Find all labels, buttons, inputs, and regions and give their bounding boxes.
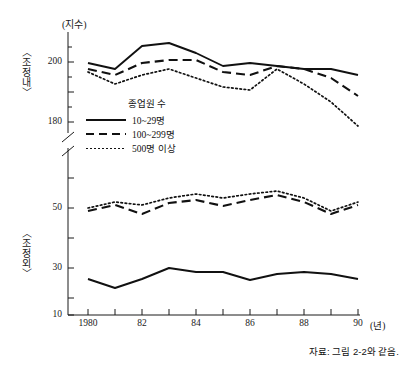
axis-break-mark-top — [62, 132, 74, 142]
y-tick-label-200: 200 — [38, 56, 62, 66]
y-ticks-upper — [68, 47, 74, 122]
chart-legend: 종업원 수 10~29명 100~299명 500명 이상 — [86, 96, 176, 155]
source-note: 자료: 그림 2-2와 같음. — [309, 344, 399, 358]
y-tick-label-180: 180 — [38, 116, 62, 126]
y-axis-unit-label: (지수) — [62, 16, 87, 31]
lower-panel-series — [88, 191, 358, 288]
x-tick-label-86: 86 — [233, 318, 267, 328]
x-ticks — [88, 309, 358, 315]
y-tick-label-50: 50 — [38, 202, 62, 212]
legend-item-100-299: 100~299명 — [86, 127, 176, 141]
y-tick-label-30: 30 — [38, 262, 62, 272]
x-tick-label-84: 84 — [179, 318, 213, 328]
legend-item-10-29: 10~29명 — [86, 113, 176, 127]
panel-label-upper: 〈조정내〉 — [20, 47, 30, 97]
x-tick-label-82: 82 — [125, 318, 159, 328]
legend-key-dashed-icon — [86, 128, 126, 140]
panel-label-lower: 〈조정외〉 — [20, 228, 30, 278]
x-tick-label-88: 88 — [287, 318, 321, 328]
legend-item-500-plus: 500명 이상 — [86, 141, 176, 155]
y-tick-label-10: 10 — [38, 309, 62, 319]
x-axis-unit-label: (년) — [370, 318, 385, 332]
legend-key-solid-icon — [86, 114, 126, 126]
x-tick-label-1980: 1980 — [71, 318, 105, 328]
legend-label-100-299: 100~299명 — [132, 127, 175, 141]
y-ticks-lower — [68, 178, 74, 315]
series-lower-10-29 — [88, 268, 358, 288]
series-upper-10-29 — [88, 43, 358, 75]
legend-key-dotted-icon — [86, 142, 126, 154]
series-lower-500-plus — [88, 191, 358, 211]
legend-label-500-plus: 500명 이상 — [132, 141, 176, 155]
legend-title: 종업원 수 — [128, 96, 176, 110]
legend-label-10-29: 10~29명 — [132, 113, 165, 127]
